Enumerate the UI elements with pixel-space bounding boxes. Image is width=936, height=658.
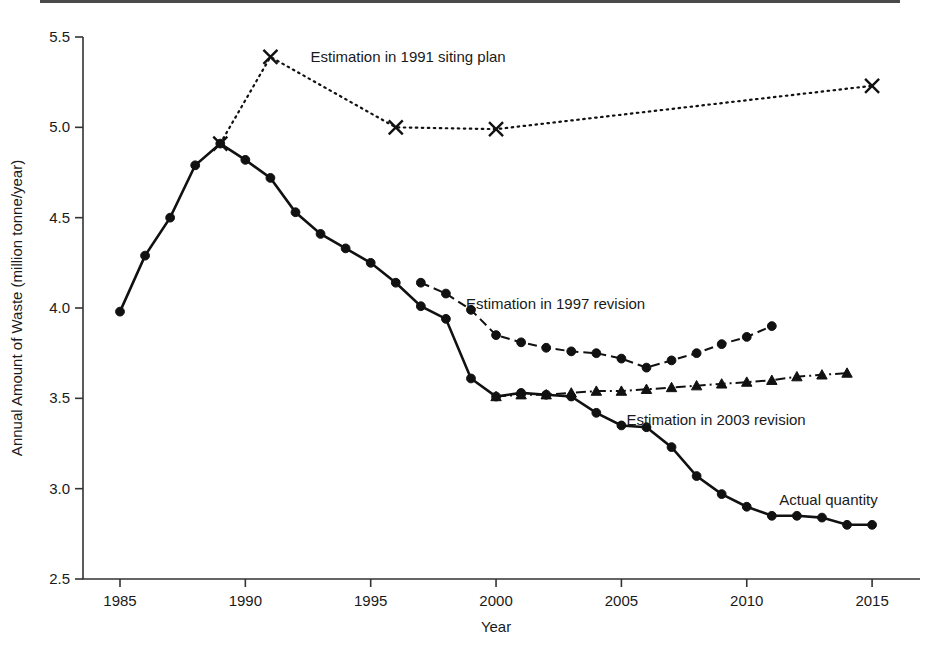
data-point	[717, 340, 726, 349]
series-label-2: Estimation in 1997 revision	[466, 295, 645, 312]
data-point	[742, 502, 751, 511]
data-point	[865, 79, 879, 93]
top-border-rule	[40, 0, 900, 3]
y-tick-label-3.5: 3.5	[49, 389, 70, 406]
data-point	[391, 278, 400, 287]
series-line-1	[220, 57, 872, 144]
y-tick-label-3.0: 3.0	[49, 480, 70, 497]
data-point	[642, 363, 651, 372]
data-point	[792, 511, 801, 520]
data-point	[166, 213, 175, 222]
data-point	[416, 302, 425, 311]
x-axis-title: Year	[481, 618, 511, 635]
series-label-1: Estimation in 1991 siting plan	[311, 48, 506, 65]
y-tick-label-2.5: 2.5	[49, 570, 70, 587]
data-point	[843, 520, 852, 529]
data-point	[141, 251, 150, 260]
data-point	[467, 374, 476, 383]
data-point	[567, 347, 576, 356]
y-axis-title: Annual Amount of Waste (million tonne/ye…	[8, 160, 25, 456]
y-tick-label-4.0: 4.0	[49, 299, 70, 316]
data-point	[868, 520, 877, 529]
y-tick-label-5.0: 5.0	[49, 118, 70, 135]
x-tick-label-2005: 2005	[605, 592, 638, 609]
data-point	[389, 120, 403, 134]
data-point	[592, 408, 601, 417]
data-point	[366, 258, 375, 267]
y-tick-label-5.5: 5.5	[49, 28, 70, 45]
series-label-0: Actual quantity	[779, 491, 878, 508]
data-point	[263, 50, 277, 64]
data-point	[767, 322, 776, 331]
data-point	[692, 349, 701, 358]
data-point	[742, 333, 751, 342]
data-point	[767, 511, 776, 520]
data-point	[442, 289, 451, 298]
data-point	[341, 244, 350, 253]
data-point	[316, 230, 325, 239]
data-point	[191, 161, 200, 170]
data-point	[291, 208, 300, 217]
data-point	[667, 356, 676, 365]
x-tick-label-1990: 1990	[229, 592, 262, 609]
data-point	[818, 513, 827, 522]
data-point	[241, 155, 250, 164]
x-tick-label-2010: 2010	[730, 592, 763, 609]
data-point	[592, 349, 601, 358]
data-point	[416, 278, 425, 287]
data-point	[617, 354, 626, 363]
data-point	[266, 174, 275, 183]
data-point	[717, 490, 726, 499]
data-point	[116, 307, 125, 316]
data-point	[667, 443, 676, 452]
y-tick-label-4.5: 4.5	[49, 209, 70, 226]
data-point	[517, 338, 526, 347]
chart-container: 2.53.03.54.04.55.05.51985199019952000200…	[0, 0, 936, 658]
data-point	[566, 388, 576, 397]
data-point	[666, 382, 676, 391]
x-tick-label-2000: 2000	[479, 592, 512, 609]
data-point	[442, 314, 451, 323]
data-point	[617, 421, 626, 430]
x-tick-label-2015: 2015	[855, 592, 888, 609]
data-point	[542, 343, 551, 352]
data-point	[492, 331, 501, 340]
x-tick-label-1985: 1985	[103, 592, 136, 609]
series-label-3: Estimation in 2003 revision	[626, 411, 805, 428]
waste-trend-line-chart: 2.53.03.54.04.55.05.51985199019952000200…	[0, 0, 936, 658]
data-point	[692, 472, 701, 481]
x-tick-label-1995: 1995	[354, 592, 387, 609]
